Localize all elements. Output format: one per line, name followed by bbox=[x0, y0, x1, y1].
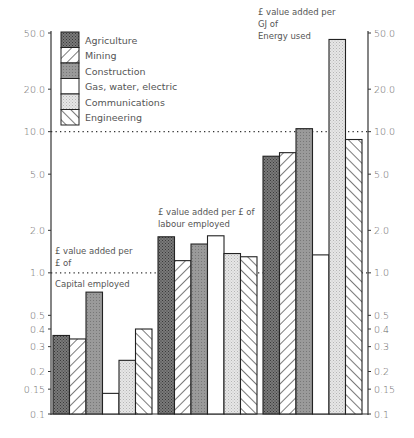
right-axis-tick-label: 50.0 bbox=[374, 28, 395, 39]
left-axis-tick-label: 20.0 bbox=[24, 84, 45, 95]
legend-label: Engineering bbox=[85, 112, 142, 123]
legend-swatch-mining bbox=[61, 48, 79, 64]
bar-construction-group-2 bbox=[296, 129, 313, 414]
legend-label: Mining bbox=[85, 50, 117, 61]
annotation-group-0-line: £ of bbox=[55, 258, 72, 268]
right-axis-tick-label: 0.4 bbox=[374, 324, 389, 335]
left-axis-tick-label: 10.0 bbox=[24, 126, 45, 137]
bar-engineering-group-0 bbox=[136, 329, 153, 414]
legend-swatch-engineering bbox=[61, 110, 79, 126]
legend-label: Gas, water, electric bbox=[85, 81, 177, 92]
bar-communications-group-1 bbox=[224, 254, 241, 414]
right-axis-tick-label: 0.15 bbox=[374, 384, 395, 395]
right-axis-tick-label: 5.0 bbox=[374, 169, 389, 180]
annotation-group-1-line: £ value added per £ of bbox=[158, 207, 255, 217]
bar-construction-group-0 bbox=[86, 292, 103, 414]
chart: 50.020.010.05.02.01.00.50.40.30.20.150.1… bbox=[0, 0, 414, 438]
annotation-group-0-line: £ value added per bbox=[55, 246, 133, 256]
left-axis-tick-label: 1.0 bbox=[30, 267, 45, 278]
left-axis-tick-label: 50.0 bbox=[24, 28, 45, 39]
right-axis-tick-label: 0.1 bbox=[374, 409, 389, 420]
left-axis-tick-label: 2.0 bbox=[30, 225, 45, 236]
legend-swatch-construction bbox=[61, 63, 79, 79]
left-axis-tick-label: 0.4 bbox=[30, 324, 45, 335]
bar-agriculture-group-0 bbox=[53, 335, 70, 414]
bar-mining-group-1 bbox=[175, 261, 192, 414]
left-axis-tick-label: 0.15 bbox=[24, 384, 45, 395]
legend-label: Communications bbox=[85, 97, 165, 108]
bar-mining-group-0 bbox=[70, 339, 87, 414]
left-axis-tick-label: 0.3 bbox=[30, 341, 45, 352]
annotation-group-0-subline: Capital employed bbox=[55, 279, 130, 289]
right-axis-tick-label: 0.5 bbox=[374, 310, 389, 321]
annotation-group-1-line: labour employed bbox=[158, 219, 230, 229]
legend: AgricultureMiningConstructionGas, water,… bbox=[61, 32, 177, 125]
bar-gas-water-electric-group-1 bbox=[208, 236, 225, 414]
legend-label: Agriculture bbox=[85, 35, 137, 46]
right-axis-tick-label: 20.0 bbox=[374, 84, 395, 95]
bar-communications-group-0 bbox=[119, 360, 136, 414]
bar-communications-group-2 bbox=[329, 39, 346, 414]
annotation-group-2-line: Energy used bbox=[258, 31, 311, 41]
right-axis-tick-label: 10.0 bbox=[374, 126, 395, 137]
bar-gas-water-electric-group-2 bbox=[313, 255, 330, 414]
legend-swatch-communications bbox=[61, 94, 79, 110]
right-axis-tick-label: 0.2 bbox=[374, 366, 389, 377]
bar-agriculture-group-1 bbox=[158, 237, 175, 414]
left-axis-tick-label: 0.1 bbox=[30, 409, 45, 420]
legend-label: Construction bbox=[85, 66, 146, 77]
bar-construction-group-1 bbox=[191, 244, 208, 414]
left-axis-tick-label: 5.0 bbox=[30, 169, 45, 180]
bar-agriculture-group-2 bbox=[263, 156, 280, 414]
bar-gas-water-electric-group-0 bbox=[103, 393, 120, 414]
annotation-group-2-line: GJ of bbox=[258, 19, 279, 29]
right-axis-tick-label: 1.0 bbox=[374, 267, 389, 278]
bar-mining-group-2 bbox=[280, 153, 297, 414]
legend-swatch-agriculture bbox=[61, 32, 79, 48]
bar-engineering-group-2 bbox=[346, 140, 363, 414]
left-axis-tick-label: 0.2 bbox=[30, 366, 45, 377]
legend-swatch-gas-water-electric bbox=[61, 79, 79, 95]
right-axis-tick-label: 2.0 bbox=[374, 225, 389, 236]
left-axis-tick-label: 0.5 bbox=[30, 310, 45, 321]
bar-engineering-group-1 bbox=[241, 257, 258, 414]
right-axis-tick-label: 0.3 bbox=[374, 341, 389, 352]
annotation-group-2-line: £ value added per bbox=[258, 7, 336, 17]
